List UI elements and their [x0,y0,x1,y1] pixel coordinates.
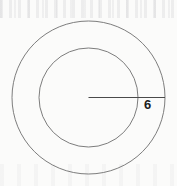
radius-measure-label: 6 [144,98,151,111]
geometry-figure: 6 [0,0,177,186]
annulus-diagram [0,0,177,186]
